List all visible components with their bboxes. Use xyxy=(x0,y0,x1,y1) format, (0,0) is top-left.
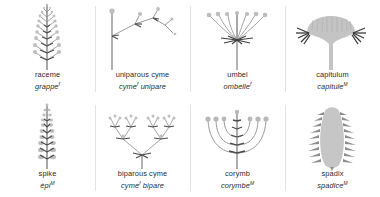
spike-gender-marker: M xyxy=(50,181,54,186)
spadix-gender-marker: M xyxy=(344,181,348,186)
spike-caption: spike épiM xyxy=(0,169,95,191)
spadix-caption: spadix spadiceM xyxy=(285,169,380,191)
biparous-cyme-label-fr: cymef bipare xyxy=(95,179,190,191)
capitulum-label-en: capitulum xyxy=(285,70,380,80)
panel-umbel[interactable]: umbel ombellef xyxy=(190,0,285,98)
inflorescence-diagram-board: raceme grappef xyxy=(0,0,380,197)
panel-spike[interactable]: spike épiM xyxy=(0,99,95,197)
corymb-caption: corymb corymbeM xyxy=(190,169,285,191)
uniparous-cyme-label-fr: cymef unipare xyxy=(95,80,190,92)
raceme-gender-marker: f xyxy=(59,82,60,87)
biparous-cyme-gender-marker: f xyxy=(139,181,140,186)
corymb-label-en: corymb xyxy=(190,169,285,179)
corymb-gender-marker: M xyxy=(250,181,254,186)
panel-corymb[interactable]: corymb corymbeM xyxy=(190,99,285,197)
biparous-cyme-caption: biparous cyme cymef bipare xyxy=(95,169,190,191)
raceme-illustration xyxy=(0,0,95,72)
spadix-illustration xyxy=(285,99,380,171)
biparous-cyme-illustration xyxy=(95,99,190,171)
panel-biparous-cyme[interactable]: biparous cyme cymef bipare xyxy=(95,99,190,197)
raceme-caption: raceme grappef xyxy=(0,70,95,92)
capitulum-label-fr: capituleM xyxy=(285,80,380,92)
raceme-label-fr: grappef xyxy=(0,80,95,92)
capitulum-caption: capitulum capituleM xyxy=(285,70,380,92)
corymb-label-fr: corymbeM xyxy=(190,179,285,191)
panel-capitulum[interactable]: capitulum capituleM xyxy=(285,0,380,98)
spike-label-en: spike xyxy=(0,169,95,179)
biparous-cyme-label-en: biparous cyme xyxy=(95,169,190,179)
panel-spadix[interactable]: spadix spadiceM xyxy=(285,99,380,197)
spike-label-fr: épiM xyxy=(0,179,95,191)
capitulum-illustration xyxy=(285,0,380,72)
umbel-label-en: umbel xyxy=(190,70,285,80)
uniparous-cyme-illustration xyxy=(95,0,190,72)
uniparous-cyme-caption: uniparous cyme cymef unipare xyxy=(95,70,190,92)
panel-raceme[interactable]: raceme grappef xyxy=(0,0,95,98)
spike-illustration xyxy=(0,99,95,171)
umbel-illustration xyxy=(190,0,285,72)
uniparous-cyme-gender-marker: f xyxy=(137,82,138,87)
umbel-caption: umbel ombellef xyxy=(190,70,285,92)
umbel-gender-marker: f xyxy=(250,82,251,87)
uniparous-cyme-label-en: uniparous cyme xyxy=(95,70,190,80)
umbel-label-fr: ombellef xyxy=(190,80,285,92)
capitulum-gender-marker: M xyxy=(344,82,348,87)
spadix-label-en: spadix xyxy=(285,169,380,179)
diagram-row-top: raceme grappef xyxy=(0,0,380,98)
corymb-illustration xyxy=(190,99,285,171)
spadix-label-fr: spadiceM xyxy=(285,179,380,191)
diagram-row-bottom: spike épiM xyxy=(0,99,380,197)
panel-uniparous-cyme[interactable]: uniparous cyme cymef unipare xyxy=(95,0,190,98)
raceme-label-en: raceme xyxy=(0,70,95,80)
